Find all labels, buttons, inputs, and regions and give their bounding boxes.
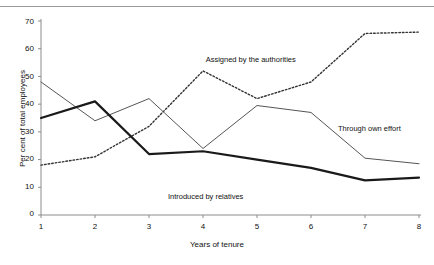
axis-lines — [41, 19, 421, 215]
series-line-through-own-effort — [41, 82, 419, 164]
series-line-assigned-by-the-authorities — [41, 32, 419, 165]
chart-figure: Per cent of total employees Years of ten… — [0, 0, 434, 265]
axis-tick-marks — [38, 21, 419, 218]
plot-area — [0, 0, 434, 265]
series-line-introduced-by-relatives — [41, 101, 419, 180]
series-lines — [41, 32, 419, 180]
